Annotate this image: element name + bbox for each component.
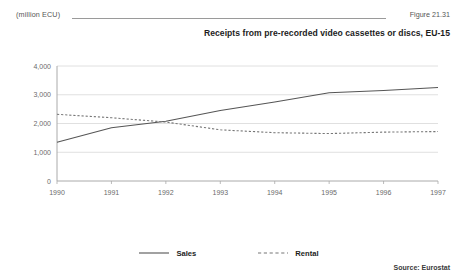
dashed-line-icon (258, 249, 288, 257)
series-line-sales (57, 88, 438, 143)
legend-label-rental: Rental (295, 249, 318, 258)
x-axis-tick-labels-group: 19901991199219931994199519961997 (49, 189, 446, 196)
x-axis-tick-label: 1991 (104, 189, 120, 196)
figure-number: Figure 21.31 (410, 10, 450, 19)
y-axis-tick-label: 1,000 (33, 149, 51, 156)
x-axis-tick-label: 1994 (267, 189, 283, 196)
header-divider-rule (72, 18, 386, 19)
y-axis-tick-label: 3,000 (33, 91, 51, 98)
solid-line-icon (139, 249, 169, 257)
gridlines-group (57, 66, 438, 152)
legend-label-sales: Sales (176, 249, 196, 258)
x-axis-tick-label: 1996 (376, 189, 392, 196)
legend-item-sales: Sales (139, 249, 196, 258)
y-axis-tick-label: 4,000 (33, 63, 51, 70)
y-axis-tick-label: 2,000 (33, 120, 51, 127)
unit-label: (million ECU) (16, 10, 60, 19)
x-axis-tick-label: 1990 (49, 189, 65, 196)
y-axis-tick-label: 0 (47, 178, 51, 185)
x-axis-tick-label: 1997 (430, 189, 446, 196)
series-line-rental (57, 114, 438, 133)
x-axis-tick-label: 1995 (321, 189, 337, 196)
source-note: Source: Eurostat (394, 264, 450, 271)
header-band: (million ECU) Figure 21.31 (0, 0, 458, 26)
chart-plot-area: 01,0002,0003,0004,000 199019911992199319… (0, 52, 458, 212)
line-chart-svg: 01,0002,0003,0004,000 199019911992199319… (0, 52, 458, 212)
x-axis-tick-label: 1993 (212, 189, 228, 196)
data-series-group (57, 88, 438, 143)
legend-item-rental: Rental (258, 249, 318, 258)
chart-title: Receipts from pre-recorded video cassett… (204, 28, 450, 38)
y-axis-tick-labels-group: 01,0002,0003,0004,000 (33, 63, 51, 185)
x-axis-tick-label: 1992 (158, 189, 174, 196)
chart-legend: Sales Rental (0, 245, 458, 261)
